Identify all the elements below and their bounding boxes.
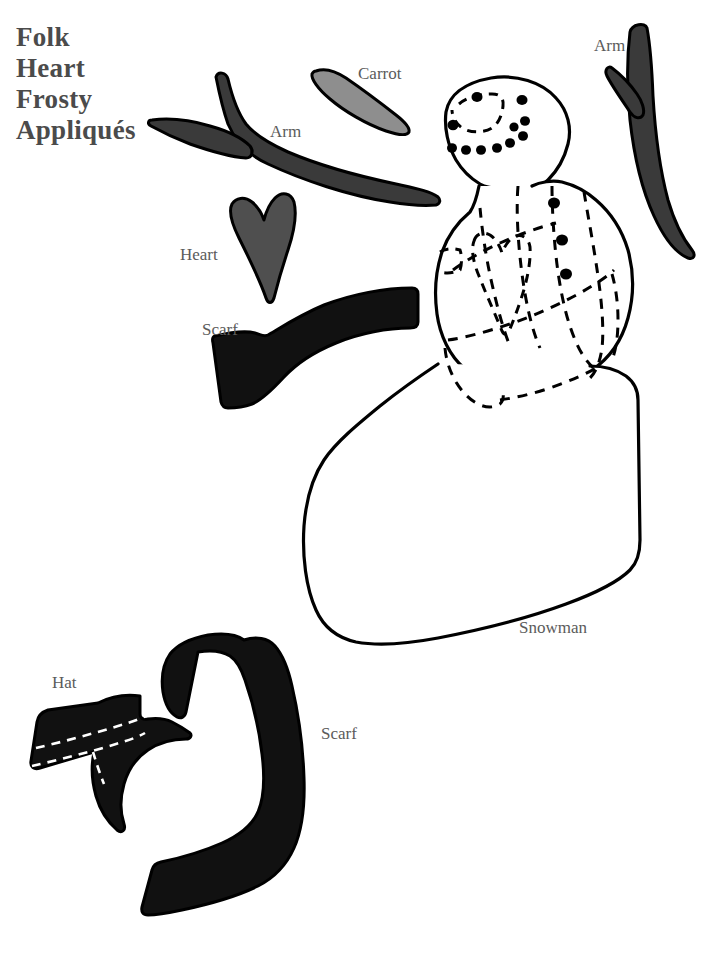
face-dot	[520, 116, 530, 126]
face-dot	[461, 145, 471, 155]
button-dot	[556, 234, 568, 245]
label-arm-left: Arm	[270, 122, 301, 142]
title-line-2: Heart	[16, 53, 236, 84]
face-dot	[447, 143, 457, 153]
label-scarf-top: Scarf	[202, 320, 238, 340]
face-dot	[476, 145, 486, 155]
title-line-1: Folk	[16, 22, 236, 53]
face-dot	[517, 95, 528, 105]
button-dot	[560, 268, 572, 279]
label-carrot: Carrot	[358, 64, 401, 84]
button-dot	[548, 197, 560, 208]
label-hat: Hat	[52, 673, 77, 693]
page-title: Folk Heart Frosty Appliqués	[16, 22, 236, 146]
face-dot	[518, 131, 528, 141]
label-scarf-bottom: Scarf	[321, 724, 357, 744]
face-dot	[492, 143, 502, 153]
label-heart: Heart	[180, 245, 218, 265]
label-snowman: Snowman	[519, 618, 587, 638]
appliqué-pattern-page: Folk Heart Frosty Appliqués Arm Arm Carr…	[0, 0, 709, 964]
face-dot	[509, 123, 518, 132]
title-line-4: Appliqués	[16, 115, 236, 146]
face-dot	[505, 138, 515, 148]
label-arm-right: Arm	[594, 36, 625, 56]
title-line-3: Frosty	[16, 84, 236, 115]
